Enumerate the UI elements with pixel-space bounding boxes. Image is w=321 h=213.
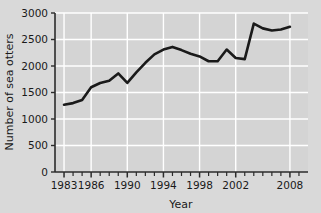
y-axis-title: Number of sea otters (3, 33, 16, 150)
x-tick-label: 1983 (51, 179, 78, 191)
y-tick-label: 500 (28, 139, 48, 151)
chart-canvas: 050010001500200025003000 198319861990199… (0, 0, 321, 213)
x-axis-title: Year (168, 198, 193, 211)
sea-otter-line-chart: 050010001500200025003000 198319861990199… (0, 0, 321, 213)
y-tick-label: 3000 (21, 7, 48, 19)
x-tick-label: 2002 (222, 179, 249, 191)
x-tick-label: 1990 (114, 179, 141, 191)
y-tick-label: 1500 (21, 86, 48, 98)
y-tick-label: 0 (41, 166, 48, 178)
y-tick-label: 2000 (21, 60, 48, 72)
x-tick-label: 1986 (78, 179, 105, 191)
x-tick-label: 1998 (186, 179, 213, 191)
x-tick-label: 2008 (277, 179, 304, 191)
y-tick-label: 2500 (21, 33, 48, 45)
y-tick-label: 1000 (21, 113, 48, 125)
x-tick-label: 1994 (150, 179, 177, 191)
